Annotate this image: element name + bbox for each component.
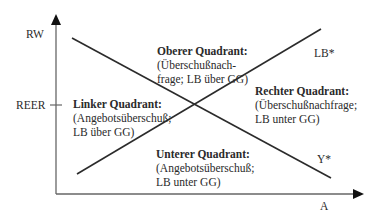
x-axis-label: A	[320, 199, 328, 213]
quadrant-top: Oberer Quadrant: (Überschußnach- frage; …	[157, 44, 248, 86]
quadrant-bottom-line2: LB unter GG)	[156, 175, 254, 189]
x-axis-arrow-icon	[353, 189, 364, 199]
curve-y-star-label: Y*	[317, 152, 331, 166]
quadrant-top-line1: (Überschußnach-	[157, 58, 248, 72]
reer-label: REER	[16, 98, 45, 112]
quadrant-right-line2: LB unter GG)	[255, 112, 357, 126]
quadrant-top-line2: frage; LB über GG)	[157, 72, 248, 86]
quadrant-left-line2: LB über GG)	[73, 125, 171, 139]
quadrant-bottom: Unterer Quadrant: (Angebotsüberschuß; LB…	[156, 147, 254, 189]
curve-lb-star-label: LB*	[314, 46, 334, 60]
y-axis-label: RW	[26, 27, 44, 41]
quadrant-top-title: Oberer Quadrant:	[157, 44, 248, 58]
quadrant-left-line1: (Angebotsüberschuß;	[73, 111, 171, 125]
quadrant-right-line1: (Überschußnachfrage;	[255, 98, 357, 112]
quadrant-right-title: Rechter Quadrant:	[255, 84, 357, 98]
quadrant-bottom-title: Unterer Quadrant:	[156, 147, 254, 161]
quadrant-right: Rechter Quadrant: (Überschußnachfrage; L…	[255, 84, 357, 126]
y-axis-arrow-icon	[51, 14, 61, 25]
quadrant-left-title: Linker Quadrant:	[73, 97, 171, 111]
quadrant-left: Linker Quadrant: (Angebotsüberschuß; LB …	[73, 97, 171, 139]
quadrant-bottom-line1: (Angebotsüberschuß;	[156, 161, 254, 175]
